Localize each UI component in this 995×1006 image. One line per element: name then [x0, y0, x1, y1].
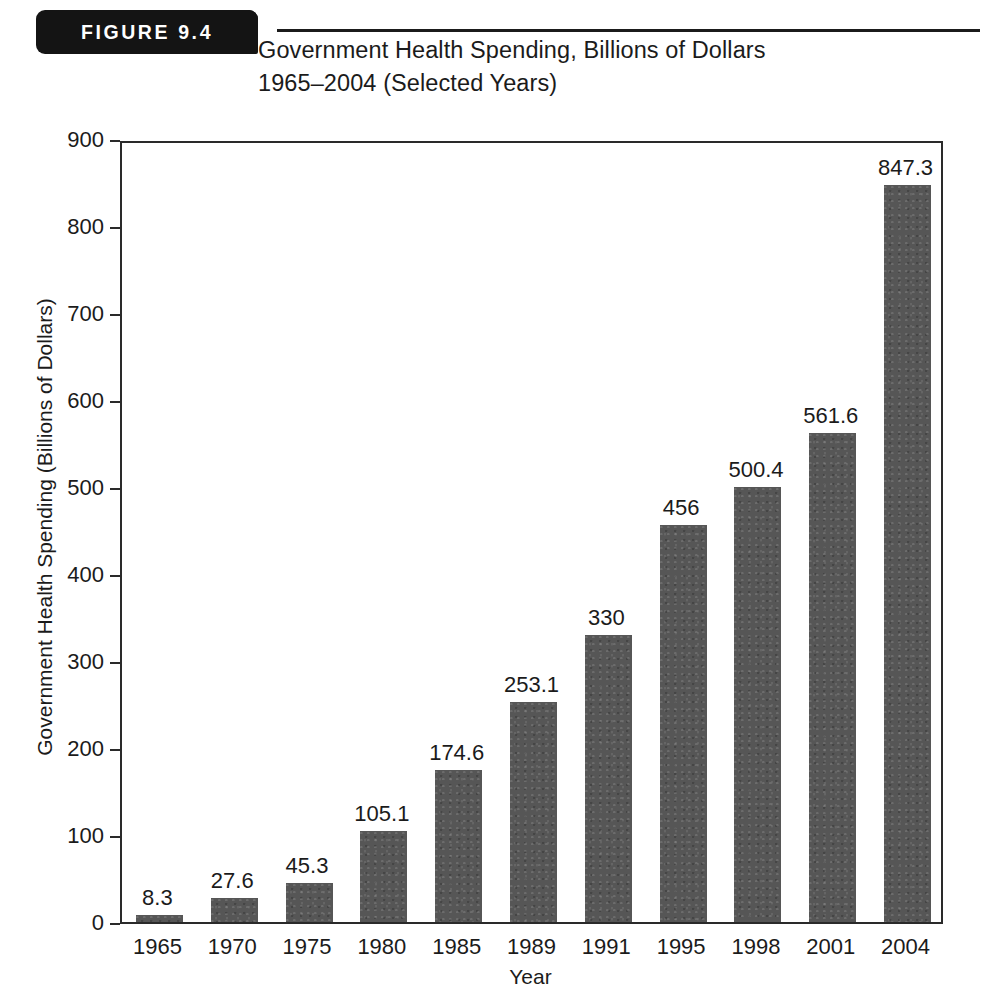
figure-title-line-1: Government Health Spending, Billions of …: [258, 34, 958, 67]
bar: [884, 185, 931, 922]
bar-value-label: 847.3: [846, 155, 966, 181]
figure-title-line-2: 1965–2004 (Selected Years): [258, 67, 958, 100]
y-axis-title: Government Health Spending (Billions of …: [33, 267, 57, 787]
bar: [435, 770, 482, 922]
bar: [286, 883, 333, 922]
bar: [211, 898, 258, 922]
y-axis-tick-label: 300: [67, 649, 104, 675]
bar-value-label: 45.3: [247, 853, 367, 879]
figure-title: Government Health Spending, Billions of …: [258, 34, 958, 100]
bar-value-label: 561.6: [771, 403, 891, 429]
y-axis-tick-label: 800: [67, 214, 104, 240]
y-axis-tick-label: 900: [67, 127, 104, 153]
y-axis-tick-mark: [110, 575, 120, 577]
bar: [510, 702, 557, 922]
x-axis-title: Year: [0, 965, 995, 989]
y-axis-tick-mark: [110, 923, 120, 925]
plot-area: [120, 141, 943, 924]
bar-value-label: 253.1: [472, 672, 592, 698]
y-axis-tick-mark: [110, 227, 120, 229]
y-axis-tick-mark: [110, 662, 120, 664]
bar-value-label: 456: [621, 495, 741, 521]
bar: [360, 831, 407, 922]
bar: [809, 433, 856, 922]
y-axis-tick-mark: [110, 749, 120, 751]
bar-value-label: 500.4: [696, 457, 816, 483]
y-axis-tick-label: 100: [67, 823, 104, 849]
bar: [136, 915, 183, 922]
bar: [734, 487, 781, 922]
bar-value-label: 105.1: [322, 801, 442, 827]
figure-header: FIGURE 9.4 Government Health Spending, B…: [0, 0, 995, 120]
y-axis-tick-label: 500: [67, 475, 104, 501]
y-axis-tick-label: 700: [67, 301, 104, 327]
bar: [585, 635, 632, 922]
y-axis-tick-label: 600: [67, 388, 104, 414]
bar-value-label: 330: [546, 605, 666, 631]
y-axis-tick-label: 200: [67, 736, 104, 762]
header-divider-rule: [277, 29, 980, 32]
x-axis-title-text: Year: [509, 965, 551, 989]
bar: [660, 525, 707, 922]
bar-value-label: 174.6: [397, 740, 517, 766]
figure-number-label: FIGURE 9.4: [36, 10, 258, 54]
bar-chart: 0100200300400500600700800900 Government …: [0, 120, 995, 1006]
y-axis-tick-label: 0: [92, 910, 104, 936]
y-axis-tick-label: 400: [67, 562, 104, 588]
y-axis-ticks: 0100200300400500600700800900: [0, 120, 120, 946]
y-axis-tick-mark: [110, 140, 120, 142]
y-axis-tick-mark: [110, 314, 120, 316]
x-axis-tick-label: 2004: [856, 934, 956, 960]
y-axis-tick-mark: [110, 488, 120, 490]
y-axis-tick-mark: [110, 401, 120, 403]
figure-number-badge: FIGURE 9.4: [36, 10, 258, 54]
y-axis-tick-mark: [110, 836, 120, 838]
